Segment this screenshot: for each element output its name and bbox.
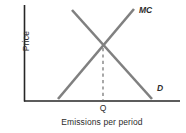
mc-curve-label: MC [139,6,152,15]
y-axis-label: Price [22,12,36,70]
x-axis-label: Emissions per period [27,118,177,127]
mc-curve [58,9,134,99]
demand-curve-label: D [157,84,163,93]
emissions-price-chart: Price Emissions per period Q MC D [0,0,186,133]
quantity-tick-label: Q [93,104,113,113]
demand-curve [72,10,152,99]
